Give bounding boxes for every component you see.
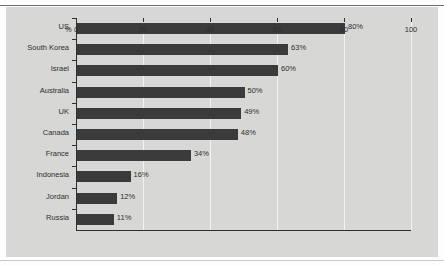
category-tick xyxy=(72,209,76,210)
bar xyxy=(77,129,238,140)
category-label-uk: UK xyxy=(59,106,69,118)
bar xyxy=(77,171,131,182)
bar-value-label: 48% xyxy=(241,127,256,139)
x-tick-100 xyxy=(411,18,412,22)
bar-value-label: 16% xyxy=(134,169,149,181)
x-tick-label-100: 100 xyxy=(405,24,418,35)
category-tick xyxy=(72,124,76,125)
x-tick-label-40: 40 xyxy=(206,24,214,35)
bar-row: US80% xyxy=(76,18,411,39)
bar-row: France34% xyxy=(76,145,411,166)
bar-value-label: 11% xyxy=(117,212,131,224)
x-tick-40 xyxy=(210,18,211,22)
bar xyxy=(77,214,114,225)
bar-series: US80%South Korea63%Israel60%Australia50%… xyxy=(76,18,411,230)
bar-chart-figure: US80%South Korea63%Israel60%Australia50%… xyxy=(6,7,438,257)
category-label-australia: Australia xyxy=(40,85,69,97)
category-label-south-korea: South Korea xyxy=(27,42,69,54)
bar-value-label: 63% xyxy=(291,42,306,54)
bar xyxy=(77,65,278,76)
category-label-france: France xyxy=(46,148,69,160)
bar-row: Canada48% xyxy=(76,124,411,145)
x-tick-0 xyxy=(76,18,77,22)
bar xyxy=(77,193,117,204)
cut-off-title xyxy=(0,0,444,3)
top-rule xyxy=(0,5,444,6)
bar-row: Australia50% xyxy=(76,82,411,103)
x-tick-label-20: 20 xyxy=(139,24,147,35)
category-tick xyxy=(72,166,76,167)
bar-row: Jordan12% xyxy=(76,188,411,209)
bar-row: Israel60% xyxy=(76,60,411,81)
category-label-indonesia: Indonesia xyxy=(36,169,69,181)
category-label-canada: Canada xyxy=(43,127,69,139)
gridline-100 xyxy=(411,18,412,230)
bar-row: South Korea63% xyxy=(76,39,411,60)
x-tick-label-60: 60 xyxy=(273,24,281,35)
x-tick-80 xyxy=(344,18,345,22)
category-tick xyxy=(72,103,76,104)
bar-value-label: 50% xyxy=(248,85,263,97)
scanned-page: US80%South Korea63%Israel60%Australia50%… xyxy=(0,0,444,266)
category-tick xyxy=(72,60,76,61)
category-tick xyxy=(72,188,76,189)
bar-row: Indonesia16% xyxy=(76,166,411,187)
category-label-russia: Russia xyxy=(46,212,69,224)
bar-value-label: 80% xyxy=(348,21,363,33)
x-tick-label-0: 0 xyxy=(74,24,78,35)
x-tick-60 xyxy=(277,18,278,22)
bar xyxy=(77,44,288,55)
bar-row: Russia11% xyxy=(76,209,411,230)
x-tick-label-80: 80 xyxy=(340,24,348,35)
bar-value-label: 49% xyxy=(244,106,259,118)
bar-value-label: 12% xyxy=(120,191,135,203)
category-label-israel: Israel xyxy=(51,63,69,75)
percent-axis-marker: % xyxy=(65,24,72,35)
bar xyxy=(77,87,245,98)
category-tick xyxy=(72,145,76,146)
plot-area: US80%South Korea63%Israel60%Australia50%… xyxy=(76,18,411,230)
category-label-jordan: Jordan xyxy=(46,191,69,203)
bar-value-label: 60% xyxy=(281,63,296,75)
x-tick-20 xyxy=(143,18,144,22)
category-tick xyxy=(72,39,76,40)
bar-value-label: 34% xyxy=(194,148,209,160)
bar xyxy=(77,150,191,161)
bottom-rule xyxy=(0,260,444,261)
value-axis-line xyxy=(76,230,411,231)
bar xyxy=(77,108,241,119)
bar-row: UK49% xyxy=(76,103,411,124)
category-tick xyxy=(72,82,76,83)
